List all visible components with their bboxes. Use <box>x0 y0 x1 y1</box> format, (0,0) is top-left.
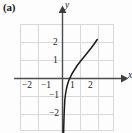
x-tick-label-neg2: −2 <box>22 80 32 90</box>
x-axis-label: x <box>128 70 132 80</box>
y-tick-label-neg2: −2 <box>49 108 59 118</box>
x-tick-label-neg1: −1 <box>41 80 51 90</box>
grid-lines <box>20 24 114 131</box>
y-tick-label-neg1: −1 <box>49 90 59 100</box>
y-tick-label-pos2: 2 <box>53 37 58 47</box>
plot-area <box>0 0 132 133</box>
figure-panel: (a) <box>0 0 132 133</box>
y-tick-label-pos1: 1 <box>53 55 58 65</box>
x-tick-label-pos2: 2 <box>88 80 93 90</box>
x-tick-label-pos1: 1 <box>70 80 75 90</box>
y-axis-label: y <box>65 0 69 10</box>
